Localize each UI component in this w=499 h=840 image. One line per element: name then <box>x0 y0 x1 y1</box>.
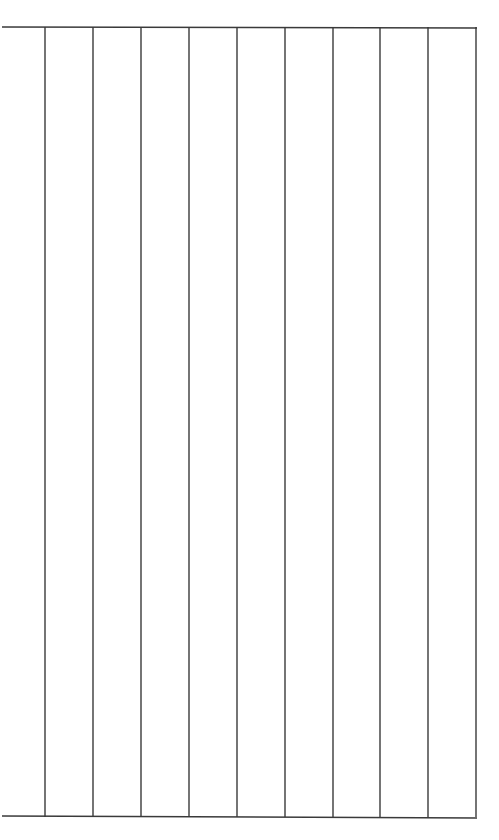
ruled-grid <box>0 0 499 840</box>
grid-lines <box>0 0 499 840</box>
bottom-rule-line <box>2 816 477 818</box>
top-rule-line <box>2 27 477 28</box>
